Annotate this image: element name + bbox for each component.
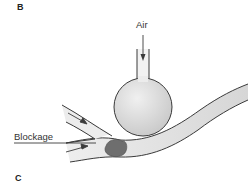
blockage-clot bbox=[105, 139, 127, 156]
blockage-label: Blockage bbox=[14, 131, 53, 142]
panel-label-b: B bbox=[17, 2, 24, 12]
balloon-bulb bbox=[114, 76, 172, 136]
diagram-canvas bbox=[0, 0, 250, 183]
panel-label-c: C bbox=[15, 173, 22, 183]
air-label: Air bbox=[136, 19, 148, 30]
